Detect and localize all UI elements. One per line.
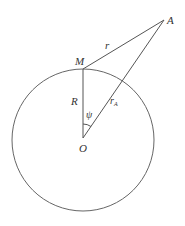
angle-arc-psi xyxy=(83,124,91,127)
label-O: O xyxy=(79,142,87,154)
label-M: M xyxy=(74,55,85,67)
label-rA: rA xyxy=(110,95,118,107)
segment-OA xyxy=(83,20,164,138)
label-A: A xyxy=(166,14,174,26)
label-psi: ψ xyxy=(86,109,93,120)
label-R: R xyxy=(70,95,78,107)
diagram-canvas: A M O r rA R ψ xyxy=(0,0,185,226)
label-rA-subscript: A xyxy=(113,101,118,107)
label-r: r xyxy=(105,39,110,51)
segment-MA xyxy=(83,20,164,69)
geometry-figure: A M O r rA R ψ xyxy=(0,0,185,226)
